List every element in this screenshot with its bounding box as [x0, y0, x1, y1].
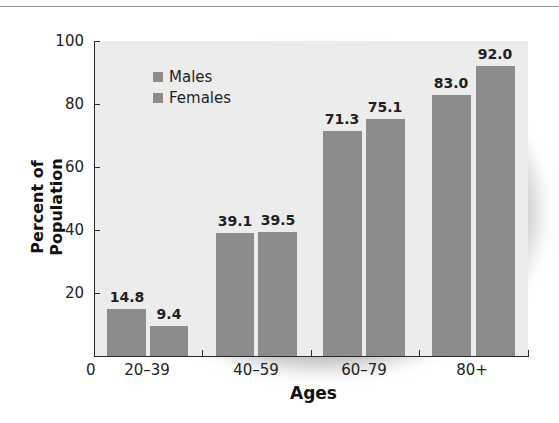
x-category-label: 40–59 [216, 361, 296, 379]
legend-item-males: Males [153, 66, 231, 87]
legend-label-females: Females [169, 89, 231, 107]
y-tick-label-100: 100 [44, 32, 84, 50]
legend: Males Females [153, 66, 231, 108]
value-label-females-40-59: 39.5 [248, 212, 308, 228]
legend-swatch-females [153, 93, 163, 103]
value-label-males-20-39: 14.8 [97, 289, 157, 305]
bar-males-60-79 [323, 131, 362, 356]
x-category-label: 80+ [432, 361, 512, 379]
bar-females-40-59 [258, 232, 297, 356]
y-axis-title: Percent of Population [28, 127, 66, 287]
value-label-males-80plus: 83.0 [421, 75, 481, 91]
top-divider-line [0, 6, 559, 7]
bar-females-20-39 [150, 326, 188, 356]
x-category-label: 20–39 [107, 361, 187, 379]
x-axis-line [94, 356, 529, 357]
bar-males-40-59 [216, 233, 254, 356]
legend-item-females: Females [153, 87, 231, 108]
x-axis-title: Ages [290, 383, 337, 403]
y-tick-label-80: 80 [44, 95, 84, 113]
value-label-females-60-79: 75.1 [355, 99, 415, 115]
bar-females-60-79 [366, 119, 405, 356]
bar-females-80plus [476, 66, 515, 356]
value-label-females-20-39: 9.4 [139, 306, 199, 322]
legend-swatch-males [153, 72, 163, 82]
origin-label: 0 [86, 361, 96, 379]
value-label-females-80plus: 92.0 [465, 46, 525, 62]
y-axis-line [94, 41, 95, 357]
bar-males-80plus [432, 95, 471, 356]
legend-label-males: Males [169, 68, 212, 86]
x-category-label: 60–79 [324, 361, 404, 379]
